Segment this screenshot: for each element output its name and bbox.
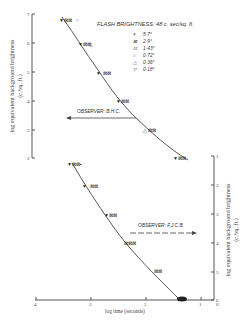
upper-y-axis: 7 6 5 4 3 2 [27,12,35,161]
x-tick: 2 [144,302,147,307]
x-tick: 3 [89,302,92,307]
svg-text:(c./sq. ft.): (c./sq. ft.) [233,218,240,241]
svg-text:log equivalent background brig: log equivalent background brightness [8,39,15,133]
data-cluster: ▼⊠⊠ [104,212,117,218]
upper-y-label: log equivalent background brightness (c.… [8,39,24,133]
lower-y-label: log equivalent background brightness (c.… [224,183,240,277]
legend: × 5·7° ⊠ 2·9° ⊡ 1·43° ○ 0·72° △ 0·36° ▽ … [132,32,155,72]
upper-y-tick: 2 [27,156,30,161]
upper-fit-curve [62,17,188,160]
upper-y-tick: 3 [27,128,30,133]
data-cluster: ⊠⊠⊠ [124,240,136,246]
upper-y-tick: 5 [27,70,30,75]
svg-text:log equivalent background brig: log equivalent background brightness [224,183,231,277]
x-tick: 0 [216,302,219,307]
upper-data-points: ▼⊠⊠ ○ ▼⊠⊠ △ ▼ ⊠⊠ ▼ ⊠⊠ △ ⊠⊠ ▼⊠⊠ [59,17,186,161]
data-cluster: ▼ [96,70,101,76]
x-tick: 4 [34,302,37,307]
data-cluster: ▼⊠⊠ [59,17,72,23]
observer-lower-label: OBSERVER: F.J.C.B. [138,223,184,228]
svg-text:5·7°: 5·7° [143,32,152,37]
svg-text:○: ○ [76,17,79,23]
observer-upper-arrow [66,116,136,120]
svg-text:△: △ [89,41,93,47]
data-cluster [177,297,187,302]
observer-lower-arrow [130,231,197,235]
data-cluster: ▼⊠⊠▪ [67,161,82,167]
svg-text:⊠⊠: ⊠⊠ [90,183,98,189]
x-tick: 1 [199,302,202,307]
data-cluster: ▼⊠⊠ [173,155,186,161]
upper-y-tick: 4 [27,99,30,104]
upper-y-tick: 7 [27,12,30,17]
lower-y-axis: 1 2 3 4 5 6 [211,154,219,303]
lower-data-points: ▼⊠⊠▪ ▼ ⊠⊠ ▼⊠⊠ ⊠⊠⊠ ⊠⊠ [67,161,187,302]
svg-text:0·18°: 0·18° [143,67,155,72]
svg-text:(c./sq. ft.): (c./sq. ft.) [17,74,24,97]
svg-text:⊠⊠: ⊠⊠ [148,127,156,133]
lower-y-tick: 4 [216,241,219,246]
svg-text:⊠: ⊠ [133,39,138,44]
svg-text:0·72°: 0·72° [143,53,155,58]
svg-text:△: △ [132,60,137,65]
svg-text:1·43°: 1·43° [143,46,155,51]
flash-brightness-title: FLASH BRIGHTNESS: 48 c. sec/sq. ft. [97,21,194,27]
figure: 7 6 5 4 3 2 log equivalent background br… [0,0,247,322]
svg-text:⊠⊠: ⊠⊠ [121,98,129,104]
data-cluster: △ [143,127,147,133]
svg-text:▽: ▽ [133,67,138,72]
lower-y-tick: 1 [216,154,219,159]
svg-text:⊡: ⊡ [133,46,138,51]
svg-text:2·9°: 2·9° [142,39,152,44]
lower-fit-curve [72,163,180,300]
lower-y-tick: 3 [216,212,219,217]
lower-y-tick: 5 [216,270,219,275]
lower-y-tick: 2 [216,183,219,188]
svg-text:0·36°: 0·36° [143,60,155,65]
svg-text:⊠⊠: ⊠⊠ [103,70,111,76]
svg-text:×: × [133,32,136,37]
x-axis-label: log time (seconds) [105,308,145,315]
upper-y-tick: 6 [27,41,30,46]
data-cluster: ▼ [82,183,87,189]
observer-upper-label: OBSERVER: B.H.C. [77,109,120,114]
data-cluster: ⊠⊠ [154,268,162,274]
x-axis: 4 3 2 1 0 log time (seconds) [34,297,219,315]
svg-text:○: ○ [133,53,136,58]
